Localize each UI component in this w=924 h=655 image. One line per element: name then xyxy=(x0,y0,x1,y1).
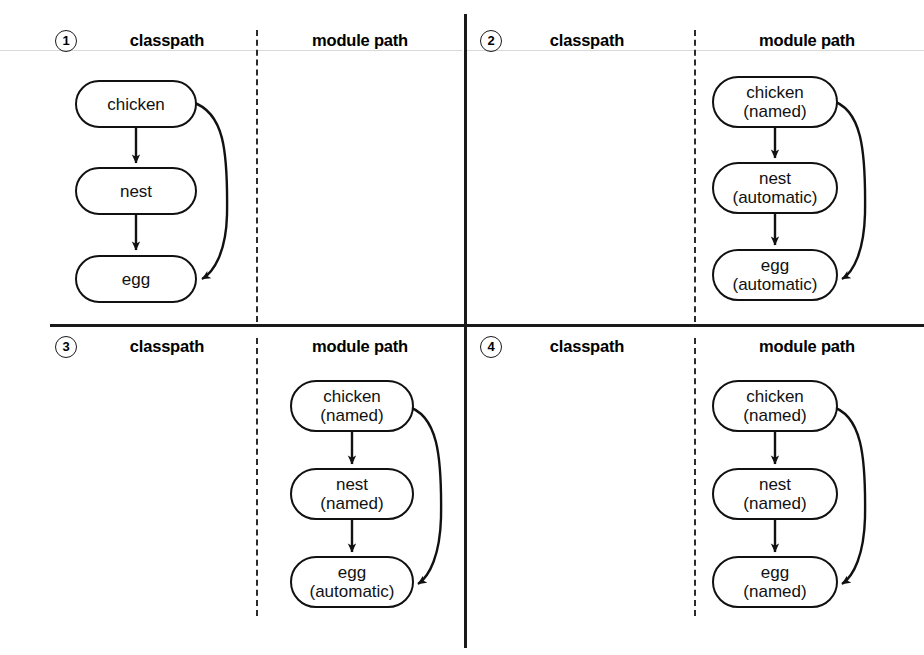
diagram-canvas: 1 classpath module path chicken xyxy=(0,0,924,655)
panel-2: 2 classpath module path chicken (named) xyxy=(462,0,924,327)
panel-1-column-separator xyxy=(256,30,258,322)
node-egg-kind: (automatic) xyxy=(309,582,394,601)
panel-3-column-separator xyxy=(256,338,258,616)
node-chicken: chicken (named) xyxy=(290,380,414,432)
panel-3: 3 classpath module path chicken (named) xyxy=(0,328,462,655)
panel-2-header: 2 classpath module path xyxy=(462,30,924,56)
panel-1-classpath-label: classpath xyxy=(92,31,242,50)
panel-3-graph: chicken (named) nest (named) egg (automa… xyxy=(0,328,462,655)
node-chicken-name: chicken xyxy=(323,387,381,406)
node-nest: nest (named) xyxy=(712,468,838,520)
node-chicken-kind: (named) xyxy=(743,102,806,121)
node-nest-kind: (automatic) xyxy=(732,188,817,207)
node-egg-kind: (automatic) xyxy=(732,275,817,294)
node-egg: egg (automatic) xyxy=(290,556,414,608)
panel-3-classpath-label: classpath xyxy=(92,337,242,356)
panel-4-header: 4 classpath module path xyxy=(462,336,924,362)
step-badge-1: 1 xyxy=(55,30,77,52)
panel-3-modulepath-label: module path xyxy=(270,337,450,356)
panel-3-edges xyxy=(0,328,462,655)
step-badge-2: 2 xyxy=(480,30,502,52)
panel-4-column-separator xyxy=(694,338,696,616)
node-egg-name: egg xyxy=(761,256,789,275)
panel-1-modulepath-label: module path xyxy=(270,31,450,50)
panel-2-classpath-label: classpath xyxy=(512,31,662,50)
node-chicken-name: chicken xyxy=(107,95,165,114)
node-egg: egg (automatic) xyxy=(712,249,838,301)
node-nest-kind: (named) xyxy=(743,494,806,513)
edge-chicken-egg xyxy=(830,406,865,584)
panel-4-modulepath-label: module path xyxy=(717,337,897,356)
node-chicken-kind: (named) xyxy=(743,406,806,425)
node-egg-name: egg xyxy=(122,270,150,289)
panel-4-edges xyxy=(462,328,924,655)
node-chicken-kind: (named) xyxy=(320,406,383,425)
node-egg-name: egg xyxy=(338,563,366,582)
node-nest-kind: (named) xyxy=(320,494,383,513)
step-badge-3: 3 xyxy=(55,336,77,358)
panel-4-classpath-label: classpath xyxy=(512,337,662,356)
node-nest-name: nest xyxy=(759,475,791,494)
node-egg-name: egg xyxy=(761,563,789,582)
node-nest-name: nest xyxy=(120,182,152,201)
node-chicken-name: chicken xyxy=(746,83,804,102)
panel-1: 1 classpath module path chicken xyxy=(0,0,462,327)
edge-chicken-egg xyxy=(406,406,441,584)
step-badge-4: 4 xyxy=(480,336,502,358)
node-nest-name: nest xyxy=(336,475,368,494)
node-egg-kind: (named) xyxy=(743,582,806,601)
node-nest-name: nest xyxy=(759,169,791,188)
panel-2-modulepath-label: module path xyxy=(717,31,897,50)
panel-2-column-separator xyxy=(694,30,696,322)
node-chicken: chicken (named) xyxy=(712,380,838,432)
edge-chicken-egg xyxy=(830,100,865,279)
node-egg: egg (named) xyxy=(712,556,838,608)
node-chicken-name: chicken xyxy=(746,387,804,406)
panel-3-header: 3 classpath module path xyxy=(0,336,462,362)
edge-chicken-egg xyxy=(192,102,227,279)
node-chicken: chicken (named) xyxy=(712,76,838,128)
panel-1-header: 1 classpath module path xyxy=(0,30,462,56)
panel-4-graph: chicken (named) nest (named) egg (named) xyxy=(462,328,924,655)
node-nest: nest (named) xyxy=(290,468,414,520)
node-nest: nest (automatic) xyxy=(712,162,838,214)
node-nest: nest xyxy=(75,167,197,215)
node-chicken: chicken xyxy=(75,80,197,128)
panel-4: 4 classpath module path chicken (named) xyxy=(462,328,924,655)
node-egg: egg xyxy=(75,255,197,303)
